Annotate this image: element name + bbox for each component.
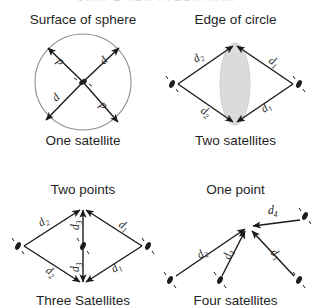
panel-one-satellite: Surface of sphere <box>8 12 158 148</box>
page-title: SPACE TRILATERATION <box>0 0 311 1</box>
satellite-icon-upper-right <box>299 208 311 224</box>
satellite-icon-left <box>166 76 178 92</box>
distance-label-d4: d4 <box>268 204 278 219</box>
panel-one-satellite-title: Surface of sphere <box>8 12 158 27</box>
satellite-icon-right <box>293 76 305 92</box>
distance-label-d1: d1 <box>267 246 284 263</box>
distance-label-d-upper-right: d <box>97 54 110 67</box>
distance-label-d2-upper: d2 <box>36 213 52 230</box>
distance-label-d3-lower: d3 <box>69 262 84 272</box>
panel-four-satellites: One point <box>160 182 311 308</box>
satellite-icon-lower-left <box>164 272 176 288</box>
panel-two-satellites-title: Edge of circle <box>160 12 311 27</box>
panel-two-satellites-caption: Two satellites <box>160 133 311 148</box>
figure-edge-of-circle: d2 d2 d1 d1 <box>160 30 311 134</box>
figure-surface-of-sphere: d d d d <box>8 30 158 134</box>
distance-arrows <box>46 48 119 122</box>
diagram-canvas: SPACE TRILATERATION Surface of sphere <box>0 0 311 308</box>
panel-three-satellites: Two points <box>8 182 158 308</box>
panel-four-satellites-caption: Four satellites <box>160 293 311 308</box>
distance-label-d-lower-right: d <box>96 100 109 113</box>
panel-three-satellites-title: Two points <box>8 182 158 197</box>
intersection-circle-lens <box>220 43 250 125</box>
figure-one-point: d4 d2 d3 d1 <box>160 200 311 294</box>
distance-label-d3-upper: d3 <box>69 220 84 230</box>
distance-label-d3: d3 <box>220 248 237 261</box>
distance-label-d1-upper: d1 <box>116 218 132 235</box>
panel-four-satellites-title: One point <box>160 182 311 197</box>
distance-label-d1-upper: d1 <box>265 54 281 71</box>
satellite-icon-right <box>142 238 154 254</box>
satellite-icon-lower-center <box>214 272 226 288</box>
panel-three-satellites-caption: Three Satellites <box>8 293 158 308</box>
figure-two-points: d2 d2 d1 d1 d3 d3 <box>8 200 158 294</box>
satellite-icon-center <box>74 78 92 86</box>
distance-label-d-lower-left: d <box>49 91 61 104</box>
satellite-icon-lower-right <box>293 272 305 288</box>
satellite-icon-left <box>12 238 24 254</box>
panel-two-satellites: Edge of circle <box>160 12 311 148</box>
distance-label-d2-upper: d2 <box>190 49 206 66</box>
distance-arrows <box>176 220 300 276</box>
panel-one-satellite-caption: One satellite <box>8 133 158 148</box>
